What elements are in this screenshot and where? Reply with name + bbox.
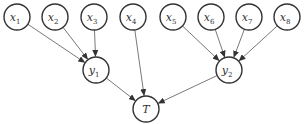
edge-x2-to-y1 [63,27,88,59]
node-x5: x5 [160,4,186,30]
node-x3: x3 [81,4,107,30]
edge-x4-to-T [135,30,144,96]
edge-y1-to-T [106,78,135,101]
node-x6: x6 [198,4,224,30]
edge-x6-to-y2 [215,29,225,57]
node-x8: x8 [274,4,300,30]
node-y1: y1 [83,57,109,83]
edge-x3-to-y1 [95,30,96,57]
edge-x5-to-y2 [182,26,219,61]
tree-diagram: x1x2x3x4x5x6x7x8y1y2T [0,0,304,124]
edge-x8-to-y2 [239,26,277,61]
edge-y2-to-T [158,76,217,104]
node-y2: y2 [216,57,242,83]
edge-x7-to-y2 [234,29,245,57]
node-x7: x7 [236,4,262,30]
node-T: T [133,96,159,122]
nodes-group: x1x2x3x4x5x6x7x8y1y2T [4,4,300,122]
node-x4: x4 [120,4,146,30]
node-x1: x1 [4,4,30,30]
node-x2: x2 [42,4,68,30]
